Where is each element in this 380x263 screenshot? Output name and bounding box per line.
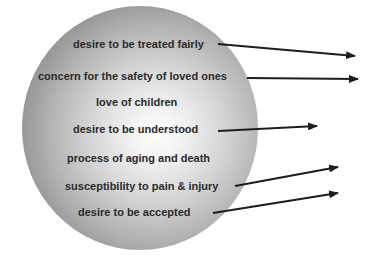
arrow-safety-of-loved-ones-icon — [247, 78, 358, 79]
arrow-desire-accepted-icon — [213, 193, 338, 213]
arrow-treated-fairly-icon — [218, 44, 355, 56]
arrow-desire-understood-icon — [218, 126, 317, 131]
diagram-canvas: desire to be treated fairly concern for … — [0, 0, 380, 263]
arrows-layer — [0, 0, 380, 263]
arrow-pain-and-injury-icon — [235, 167, 338, 186]
